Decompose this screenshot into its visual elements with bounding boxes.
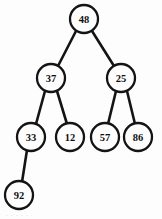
tree-node-12[interactable]: 12 [56, 123, 84, 151]
tree-node-57[interactable]: 57 [91, 123, 119, 151]
tree-node-25[interactable]: 25 [107, 64, 135, 92]
node-label-12: 12 [65, 132, 75, 143]
tree-edge-n33-n92 [22, 150, 27, 182]
binary-tree-diagram: 4837253312578692 . . . . . . [0, 0, 162, 219]
tree-edge-n37-n12 [57, 91, 67, 124]
tree-edge-n48-n25 [92, 31, 114, 66]
node-label-57: 57 [100, 132, 110, 143]
tree-edge-n37-n33 [36, 91, 45, 124]
tree-canvas: 4837253312578692 [0, 0, 162, 219]
scan-artifact-text: . . . . . . [6, 211, 34, 217]
tree-node-86[interactable]: 86 [124, 123, 152, 151]
tree-node-37[interactable]: 37 [37, 64, 65, 92]
tree-node-48[interactable]: 48 [70, 5, 98, 33]
tree-edge-n25-n86 [127, 91, 135, 124]
node-label-37: 37 [46, 73, 56, 84]
node-label-92: 92 [14, 190, 24, 201]
tree-edge-n25-n57 [108, 91, 116, 124]
tree-edge-n48-n37 [58, 31, 76, 66]
node-label-48: 48 [79, 14, 89, 25]
node-label-33: 33 [26, 132, 36, 143]
node-label-25: 25 [116, 73, 126, 84]
tree-node-33[interactable]: 33 [17, 123, 45, 151]
edge-layer [22, 31, 135, 182]
node-label-86: 86 [133, 132, 143, 143]
tree-node-92[interactable]: 92 [5, 181, 33, 209]
